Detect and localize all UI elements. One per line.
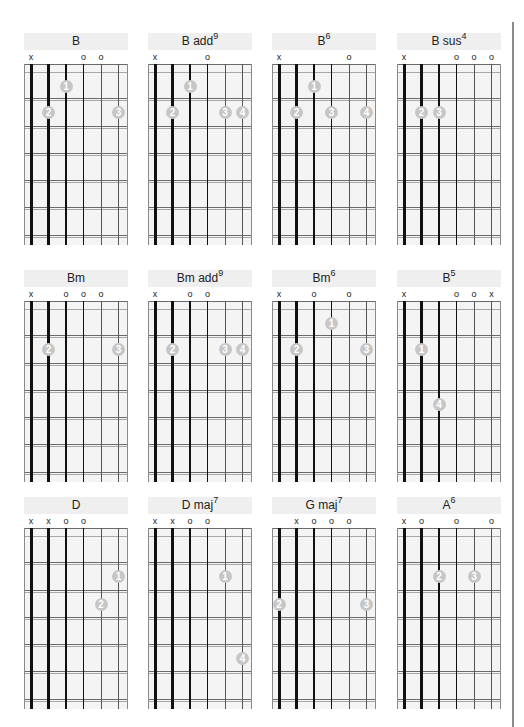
fret-line [273,562,375,563]
fret-line [273,390,375,391]
muted-string-marker: x [399,52,409,62]
fret-line [273,153,375,154]
guitar-string [101,528,102,709]
fret-line [149,72,251,73]
fret-line [398,671,500,672]
finger-dot: 3 [112,343,125,356]
chord-name-text: B [442,271,450,285]
guitar-string [420,64,423,245]
fret-line [273,619,375,620]
chord-name: G maj7 [272,497,376,514]
chord-name-text: A [442,498,450,512]
fret-line [273,392,375,393]
chord-name-text: B sus [431,34,461,48]
fret-line [149,309,251,310]
guitar-string [456,528,458,709]
guitar-string [154,301,157,482]
guitar-string [474,528,475,709]
guitar-string [438,528,440,709]
fret-line [25,536,127,537]
finger-dot: 2 [290,106,303,119]
fret-line [398,98,500,99]
chord-diagram: Boox123 [24,33,128,248]
open-string-marker: o [203,516,213,526]
guitar-string [366,301,367,482]
string-markers: oox [24,52,128,62]
finger-dot: 1 [60,80,73,93]
muted-string-marker: x [26,516,36,526]
fret-line [273,617,375,618]
chord-name: B sus4 [397,33,501,50]
guitar-string [225,528,226,709]
chord-name: D maj7 [148,497,252,514]
chord-superscript: 7 [338,495,343,505]
finger-dot: 4 [236,106,249,119]
fret-line [149,617,251,618]
chord-diagram: B5xoox14 [397,270,501,485]
fretboard: 23 [397,64,501,245]
chord-name-text: B [317,34,325,48]
fret-line [25,98,127,99]
guitar-string [403,301,406,482]
fret-line [25,472,127,473]
string-markers: ooox [397,52,501,62]
muted-string-marker: x [274,289,284,299]
fretboard: 1234 [148,64,252,245]
fret-line [273,363,375,364]
fret-line [273,673,375,674]
finger-dot: 1 [184,80,197,93]
finger-dot: 3 [219,343,232,356]
muted-string-marker: x [168,516,178,526]
guitar-string [438,64,440,245]
guitar-string [83,64,85,245]
guitar-string [295,301,298,482]
muted-string-marker: x [399,289,409,299]
fret-line [273,564,375,565]
guitar-string [118,528,119,709]
chord-diagram: D maj7ooxx14 [148,497,252,712]
guitar-string [349,528,350,709]
fret-line [25,237,127,238]
fret-line [149,335,251,336]
chord-name: Bm add9 [148,270,252,287]
finger-dot: 2 [166,343,179,356]
fret-line [149,390,251,391]
finger-dot: 2 [42,343,55,356]
fret-line [25,564,127,565]
guitar-string [474,64,475,245]
fret-line [398,237,500,238]
guitar-string [47,64,50,245]
fret-line [273,180,375,181]
fret-line [273,701,375,702]
fret-line [273,590,375,591]
open-string-marker: o [487,52,497,62]
guitar-string [491,301,492,482]
chord-diagram: B add9ox1234 [148,33,252,248]
finger-dot: 4 [236,343,249,356]
muted-string-marker: x [399,516,409,526]
finger-dot: 4 [433,398,446,411]
fret-line [25,126,127,127]
muted-string-marker: x [150,289,160,299]
fret-line [149,472,251,473]
fret-line [273,528,375,529]
guitar-string [331,64,333,245]
fret-line [149,562,251,563]
fret-line [273,72,375,73]
open-string-marker: o [417,516,427,526]
fret-line [149,417,251,418]
muted-string-marker: x [292,516,302,526]
fret-line [398,301,500,302]
fret-line [25,562,127,563]
fret-line [25,365,127,366]
fret-line [25,72,127,73]
fret-line [149,209,251,210]
string-markers: ooox [272,516,376,526]
fret-line [273,98,375,99]
fret-line [149,536,251,537]
guitar-string [30,64,33,245]
fret-line [398,564,500,565]
guitar-string [474,301,475,482]
string-markers: xoox [397,289,501,299]
muted-string-marker: x [487,289,497,299]
